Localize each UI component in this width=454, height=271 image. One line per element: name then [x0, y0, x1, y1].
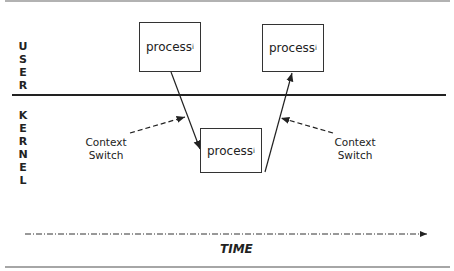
switch-down-arrow	[171, 72, 200, 149]
context-switch-left-pointer	[130, 117, 185, 133]
user-region-label: U S E R	[16, 40, 30, 92]
context-switch-right-label: Context Switch	[325, 136, 385, 162]
context-switch-left-label: Context Switch	[76, 136, 136, 162]
switch-up-arrow	[265, 73, 292, 172]
time-label: TIME	[220, 242, 253, 256]
process-box-user-left: processi	[139, 22, 201, 72]
kernel-region-label: K E R N E L	[16, 109, 30, 187]
process-box-user-right: processi	[262, 24, 324, 72]
context-switch-right-pointer	[281, 118, 333, 133]
process-box-kernel: processi	[200, 128, 262, 173]
